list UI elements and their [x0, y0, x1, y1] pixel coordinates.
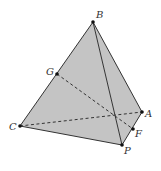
face-bcp	[20, 22, 122, 145]
point-c	[18, 124, 22, 128]
label-c: C	[9, 121, 17, 132]
label-a: A	[144, 108, 152, 119]
label-b: B	[95, 9, 103, 20]
label-f: F	[134, 128, 143, 139]
point-a	[140, 110, 144, 114]
point-b	[91, 20, 95, 24]
label-p: P	[123, 145, 131, 156]
label-g: G	[46, 66, 54, 77]
point-g	[55, 72, 59, 76]
tetrahedron-diagram: B C P A G F	[0, 0, 161, 171]
